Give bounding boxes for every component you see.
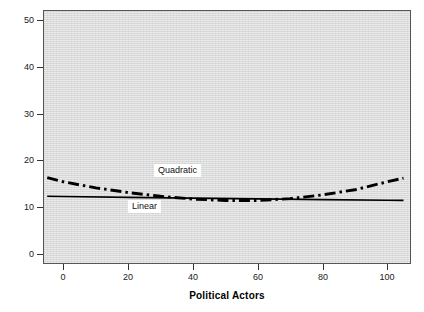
x-tick-mark: [63, 264, 64, 270]
y-tick-label: 20: [10, 156, 34, 165]
x-tick-mark: [193, 264, 194, 270]
y-axis-title-wrapper: Partisan and campaign activism: [10, 10, 24, 264]
y-tick-label: 40: [10, 63, 34, 72]
x-tick-label: 40: [173, 273, 213, 282]
x-tick-mark: [128, 264, 129, 270]
y-tick-label: 10: [10, 203, 34, 212]
x-tick-label: 20: [108, 273, 148, 282]
x-tick-mark: [258, 264, 259, 270]
series-label-linear: Linear: [128, 200, 161, 213]
x-tick-label: 0: [43, 273, 83, 282]
y-tick-label: 50: [10, 16, 34, 25]
y-tick-label: 0: [10, 250, 34, 259]
series-label-quadratic: Quadratic: [154, 164, 201, 177]
x-tick-label: 60: [238, 273, 278, 282]
x-tick-label: 100: [367, 273, 407, 282]
series-layer: [44, 11, 410, 263]
x-tick-mark: [323, 264, 324, 270]
y-tick-label: 30: [10, 110, 34, 119]
plot-area: Quadratic Linear: [43, 10, 411, 264]
x-tick-label: 80: [303, 273, 343, 282]
x-axis-title: Political Actors: [43, 290, 411, 301]
x-tick-mark: [387, 264, 388, 270]
chart-figure: Partisan and campaign activism 010203040…: [0, 0, 424, 312]
